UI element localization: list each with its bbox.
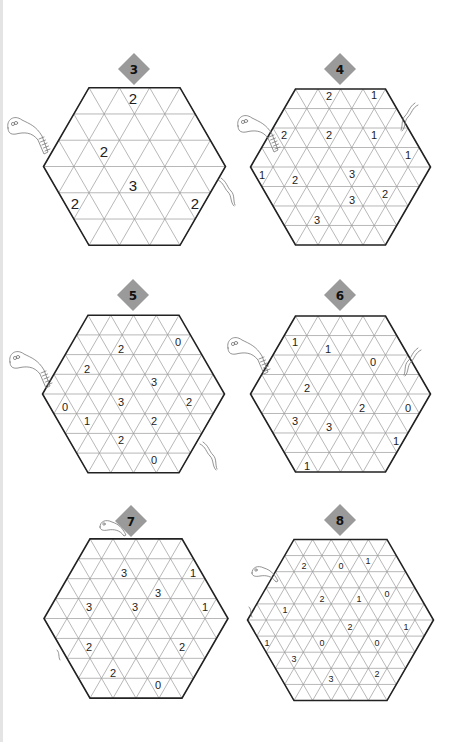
snake-icon	[228, 338, 270, 374]
clue-number[interactable]: 1	[264, 638, 269, 648]
clue-number[interactable]: 1	[371, 89, 377, 101]
puzzle-number-label: 6	[336, 289, 344, 303]
clue-number[interactable]: 3	[349, 194, 355, 206]
snake-icon	[218, 178, 235, 206]
clue-number[interactable]: 1	[405, 149, 411, 161]
grid-line	[156, 374, 213, 473]
clue-number[interactable]: 1	[365, 556, 370, 566]
snake-icon	[200, 442, 217, 470]
grid-line	[56, 599, 114, 699]
clue-number[interactable]: 3	[132, 601, 138, 613]
clue-number[interactable]: 0	[338, 561, 343, 571]
clue-number[interactable]: 3	[151, 376, 157, 388]
clue-number[interactable]: 0	[370, 356, 376, 368]
clue-number[interactable]: 0	[405, 402, 411, 414]
puzzle-canvas: 3223224212211123233520230321220611022033…	[0, 0, 461, 742]
puzzle-number-label: 4	[336, 63, 344, 77]
clue-number[interactable]: 3	[86, 601, 92, 613]
clue-number[interactable]: 3	[118, 396, 124, 408]
grid-line	[262, 148, 318, 245]
puzzle-6: 61102203311	[228, 279, 431, 472]
clue-number[interactable]: 3	[155, 587, 161, 599]
clue-number[interactable]: 3	[121, 567, 127, 579]
clue-number[interactable]: 2	[326, 90, 332, 102]
clue-number[interactable]: 2	[382, 188, 388, 200]
clue-number[interactable]: 2	[118, 343, 124, 355]
grid-line	[363, 375, 419, 472]
puzzle-number-label: 3	[130, 63, 138, 77]
clue-number[interactable]: 3	[328, 674, 333, 684]
clue-number[interactable]: 2	[151, 415, 157, 427]
clue-number[interactable]: 2	[110, 667, 116, 679]
clue-number[interactable]: 2	[319, 594, 324, 604]
clue-number[interactable]: 1	[356, 594, 361, 604]
clue-number[interactable]: 1	[393, 435, 399, 447]
puzzle-number-badge: 8	[324, 504, 356, 536]
clue-number[interactable]: 2	[84, 363, 90, 375]
puzzle-number-label: 5	[129, 289, 137, 303]
clue-number[interactable]: 2	[359, 402, 365, 414]
clue-number[interactable]: 2	[347, 622, 352, 632]
clue-number[interactable]: 3	[129, 177, 137, 194]
puzzle-4: 4212211123233	[238, 53, 431, 245]
clue-number[interactable]: 2	[129, 90, 137, 107]
clue-number[interactable]: 1	[84, 415, 90, 427]
clue-number[interactable]: 2	[86, 641, 92, 653]
puzzle-8: 8201210121100332	[248, 504, 434, 701]
clue-number[interactable]: 0	[175, 336, 181, 348]
snake-icon	[238, 116, 280, 152]
clue-number[interactable]: 2	[326, 129, 332, 141]
clue-number[interactable]: 3	[314, 214, 320, 226]
grid-line	[318, 89, 397, 225]
grid-line	[74, 88, 150, 219]
grid-line	[119, 88, 195, 219]
clue-number[interactable]: 0	[374, 638, 379, 648]
clue-number[interactable]: 1	[403, 622, 408, 632]
grid-line	[159, 539, 217, 639]
clue-number[interactable]: 2	[292, 174, 298, 186]
clue-number[interactable]: 3	[291, 654, 296, 664]
clue-number[interactable]: 0	[62, 401, 68, 413]
puzzle-number-label: 7	[127, 515, 135, 529]
clue-number[interactable]: 3	[326, 421, 332, 433]
clue-number[interactable]: 1	[292, 336, 298, 348]
grid-line	[113, 559, 194, 698]
grid-line	[285, 556, 369, 701]
clue-number[interactable]: 3	[292, 415, 298, 427]
puzzle-3: 322322	[8, 53, 235, 245]
grid-line	[285, 539, 369, 684]
clue-number[interactable]: 2	[71, 195, 79, 212]
clue-number[interactable]: 3	[349, 168, 355, 180]
clue-number[interactable]: 0	[384, 589, 389, 599]
snake-icon	[8, 118, 50, 154]
puzzle-number-badge: 4	[324, 53, 356, 85]
clue-number[interactable]: 0	[151, 454, 157, 466]
clue-number[interactable]: 1	[282, 605, 287, 615]
clue-number[interactable]: 0	[319, 638, 324, 648]
clue-number[interactable]: 1	[371, 129, 377, 141]
grid-line	[350, 588, 415, 701]
clue-number[interactable]: 2	[100, 143, 108, 160]
clue-number[interactable]: 2	[374, 669, 379, 679]
clue-number[interactable]: 1	[190, 567, 196, 579]
grid-line	[54, 374, 111, 473]
puzzle-number-badge: 6	[324, 279, 356, 311]
clue-number[interactable]: 2	[191, 195, 199, 212]
clue-number[interactable]: 1	[325, 343, 331, 355]
puzzle-5: 520230321220	[10, 279, 225, 473]
clue-number[interactable]: 2	[281, 129, 287, 141]
clue-number[interactable]: 2	[304, 382, 310, 394]
clue-number[interactable]: 2	[179, 641, 185, 653]
puzzle-number-badge: 3	[118, 53, 150, 85]
puzzle-7: 73133312220	[44, 505, 228, 698]
clue-number[interactable]: 2	[118, 434, 124, 446]
clue-number[interactable]: 1	[304, 460, 310, 472]
triangle-grid	[44, 88, 226, 246]
clue-number[interactable]: 1	[202, 601, 208, 613]
clue-number[interactable]: 2	[301, 561, 306, 571]
triangle-grid	[251, 316, 431, 472]
triangle-grid	[44, 539, 228, 698]
clue-number[interactable]: 0	[155, 679, 161, 691]
clue-number[interactable]: 1	[259, 169, 265, 181]
clue-number[interactable]: 2	[186, 396, 192, 408]
